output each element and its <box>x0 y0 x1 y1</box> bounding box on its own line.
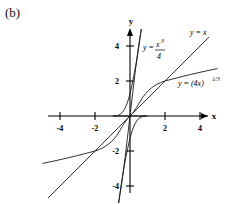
x-tick-label: -4 <box>57 124 64 133</box>
curve-label-cubic-exponent: 3 <box>160 38 164 44</box>
curve-label-identity: y = x <box>189 28 207 37</box>
axes-group <box>48 28 208 193</box>
graph-svg: x y -4 -2 2 4 4 2 -2 -4 <box>0 0 235 204</box>
curve-label-cubic-denominator: 4 <box>157 52 161 61</box>
curve-label-cube-root-base: y = (4x) <box>177 79 204 88</box>
x-tick-label: -2 <box>92 124 99 133</box>
panel-label: (b) <box>5 5 20 21</box>
figure-panel: (b) x y -4 -2 2 4 <box>0 0 235 204</box>
y-axis-arrow <box>127 28 133 36</box>
y-tick-label: 2 <box>115 77 119 86</box>
y-axis-label: y <box>129 16 134 26</box>
y-tick-label: -2 <box>112 147 119 156</box>
curve-label-cube-root: y = (4x) 1/3 <box>177 76 220 88</box>
y-tick-label: 4 <box>115 42 119 51</box>
curve-label-cubic: y = x 3 4 <box>142 38 165 61</box>
x-axis-label: x <box>212 111 217 121</box>
x-tick-label: 2 <box>163 124 167 133</box>
curve-label-cube-root-exponent: 1/3 <box>212 76 220 82</box>
curve-label-cubic-lhs: y = <box>142 43 154 52</box>
x-tick-label: 4 <box>198 124 202 133</box>
y-tick-label: -4 <box>112 182 119 191</box>
curve-label-cubic-numerator: x <box>155 40 160 49</box>
x-axis-arrow <box>201 113 208 119</box>
